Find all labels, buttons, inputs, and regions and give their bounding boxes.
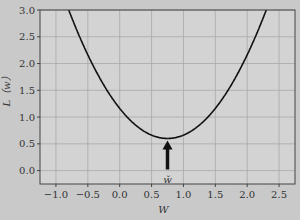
- x-axis-ticks: −1.0−0.50.00.51.01.52.02.5: [44, 184, 287, 200]
- x-tick-label: 1.0: [175, 189, 191, 200]
- chart: −1.0−0.50.00.51.01.52.02.5 0.00.51.01.52…: [0, 0, 300, 220]
- x-tick-label: 0.5: [144, 189, 160, 200]
- y-tick-label: 0.5: [19, 138, 35, 149]
- y-tick-label: 1.0: [19, 112, 35, 123]
- y-tick-label: 0.0: [19, 165, 35, 176]
- x-tick-label: −0.5: [76, 189, 100, 200]
- y-tick-label: 2.0: [19, 58, 35, 69]
- x-tick-label: 1.5: [207, 189, 223, 200]
- y-axis-ticks: 0.00.51.01.52.02.53.0: [19, 5, 40, 177]
- y-axis-label: L（w）: [1, 71, 12, 107]
- y-tick-label: 2.5: [19, 31, 35, 42]
- x-tick-label: −1.0: [44, 189, 68, 200]
- x-tick-label: 2.0: [239, 189, 255, 200]
- x-tick-label: 0.0: [112, 189, 128, 200]
- x-tick-label: 2.5: [271, 189, 287, 200]
- y-tick-label: 3.0: [19, 5, 35, 16]
- y-tick-label: 1.5: [19, 85, 35, 96]
- x-axis-label: W: [158, 204, 169, 215]
